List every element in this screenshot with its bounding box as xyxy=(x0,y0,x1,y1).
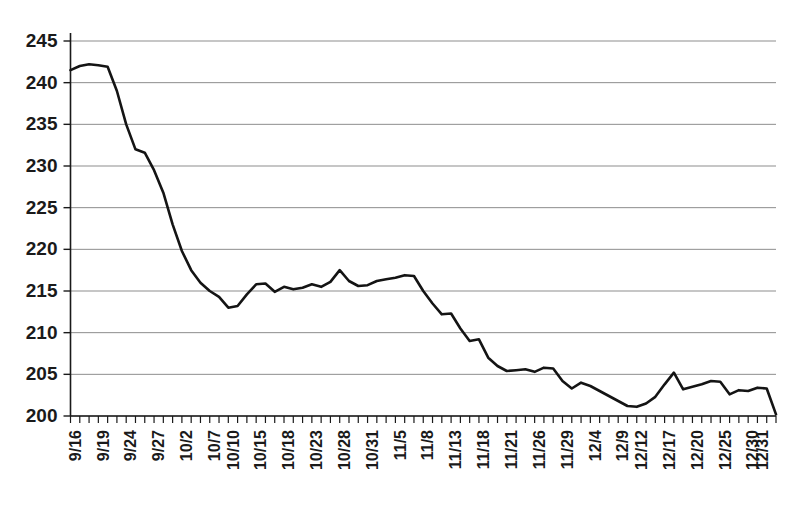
y-tick-label: 230 xyxy=(26,155,58,176)
y-tick-label: 215 xyxy=(26,280,58,301)
x-tick-label: 10/15 xyxy=(252,430,269,470)
x-tick-label: 11/13 xyxy=(447,430,464,469)
x-tick-label: 12/17 xyxy=(661,430,678,470)
chart-canvas: 245240235230225220215210205200 9/169/199… xyxy=(0,0,807,505)
x-tick-label: 11/26 xyxy=(531,430,548,469)
x-tick-label: 12/20 xyxy=(689,430,706,470)
y-axis-tick-marks xyxy=(64,41,71,416)
x-tick-label: 11/29 xyxy=(559,430,576,469)
x-tick-label: 11/8 xyxy=(419,430,436,460)
x-tick-label: 11/21 xyxy=(503,430,520,469)
y-axis-tick-labels: 245240235230225220215210205200 xyxy=(26,30,58,426)
x-tick-label: 12/12 xyxy=(633,430,650,470)
x-tick-label: 12/25 xyxy=(717,430,734,470)
y-tick-label: 210 xyxy=(26,322,58,343)
x-tick-label: 9/27 xyxy=(150,430,167,461)
y-tick-label: 235 xyxy=(26,113,58,134)
x-axis-tick-marks xyxy=(71,416,777,423)
x-tick-label: 10/10 xyxy=(225,430,242,470)
x-tick-label: 10/2 xyxy=(178,430,195,461)
x-tick-label: 12/4 xyxy=(587,430,604,461)
x-tick-label: 10/18 xyxy=(280,430,297,470)
x-tick-label: 10/7 xyxy=(206,430,223,461)
x-tick-label: 10/23 xyxy=(308,430,325,470)
y-tick-label: 200 xyxy=(26,405,58,426)
y-tick-label: 205 xyxy=(26,363,58,384)
x-tick-label: 12/31 xyxy=(754,430,771,470)
gridlines xyxy=(71,41,777,416)
y-tick-label: 225 xyxy=(26,197,58,218)
y-tick-label: 240 xyxy=(26,72,58,93)
x-tick-label: 10/28 xyxy=(336,430,353,470)
x-tick-label: 11/18 xyxy=(475,430,492,469)
line-chart-figure: 245240235230225220215210205200 9/169/199… xyxy=(0,0,807,505)
x-tick-label: 10/31 xyxy=(364,430,381,470)
data-series-line xyxy=(71,64,777,414)
x-tick-label: 9/24 xyxy=(122,430,139,461)
x-tick-label: 11/5 xyxy=(392,430,409,460)
x-tick-label: 9/19 xyxy=(95,430,112,461)
x-axis-tick-labels: 9/169/199/249/2710/210/710/1010/1510/181… xyxy=(67,430,771,470)
x-tick-label: 9/16 xyxy=(67,430,84,461)
y-tick-label: 245 xyxy=(26,30,58,51)
y-tick-label: 220 xyxy=(26,238,58,259)
x-tick-label: 12/9 xyxy=(614,430,631,461)
